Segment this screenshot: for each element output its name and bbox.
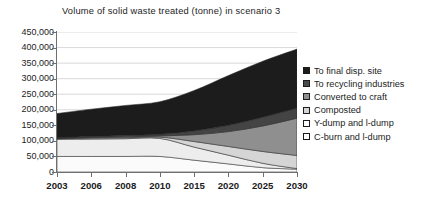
x-tick-mark: [228, 172, 229, 177]
legend-swatch-icon: [303, 93, 310, 100]
legend-item-label: To recycling industries: [314, 79, 404, 89]
legend-item[interactable]: Converted to craft: [303, 90, 436, 103]
legend-item[interactable]: Y-dump and l-dump: [303, 117, 436, 130]
x-tick-label: 2003: [46, 180, 67, 191]
x-tick-mark: [194, 172, 195, 177]
y-tick-mark: [52, 141, 57, 142]
x-tick-label: 2020: [218, 180, 239, 191]
x-tick-mark: [57, 172, 58, 177]
y-tick-mark: [52, 110, 57, 111]
chart-legend: To final disp. siteTo recycling industri…: [303, 64, 436, 143]
legend-item[interactable]: To final disp. site: [303, 64, 436, 77]
legend-item[interactable]: Composted: [303, 104, 436, 117]
y-tick-label: 200,000: [0, 105, 54, 114]
y-tick-mark: [52, 79, 57, 80]
y-tick-mark: [52, 156, 57, 157]
y-tick-label: 0: [0, 168, 54, 177]
legend-item-label: Composted: [314, 105, 361, 115]
x-tick-mark: [126, 172, 127, 177]
y-tick-label: 450,000: [0, 28, 54, 37]
y-tick-label: 350,000: [0, 59, 54, 68]
legend-item-label: Y-dump and l-dump: [314, 118, 394, 128]
x-tick-mark: [160, 172, 161, 177]
y-tick-mark: [52, 32, 57, 33]
y-tick-mark: [52, 63, 57, 64]
x-tick-label: 2008: [115, 180, 136, 191]
legend-swatch-icon: [303, 133, 310, 140]
legend-swatch-icon: [303, 80, 310, 87]
chart-title: Volume of solid waste treated (tonne) in…: [62, 6, 280, 16]
y-tick-mark: [52, 94, 57, 95]
y-tick-mark: [52, 125, 57, 126]
x-tick-label: 2015: [183, 180, 204, 191]
legend-item-label: Converted to craft: [314, 92, 387, 102]
plot-area: [57, 32, 297, 172]
stacked-area-plot: [57, 32, 297, 172]
x-tick-label: 2025: [252, 180, 273, 191]
legend-swatch-icon: [303, 67, 310, 74]
x-tick-label: 2030: [286, 180, 307, 191]
y-tick-label: 250,000: [0, 90, 54, 99]
y-tick-label: 100,000: [0, 136, 54, 145]
x-tick-mark: [297, 172, 298, 177]
x-tick-label: 2010: [149, 180, 170, 191]
legend-swatch-icon: [303, 107, 310, 114]
y-axis-tick-labels: 450,000400,000350,000300,000250,000200,0…: [0, 32, 54, 172]
y-tick-label: 150,000: [0, 121, 54, 130]
y-tick-label: 50,000: [0, 152, 54, 161]
legend-item-label: C-burn and l-dump: [314, 132, 391, 142]
x-axis-tick-labels: 20032006200820102015202020252030: [0, 180, 320, 196]
x-tick-mark: [91, 172, 92, 177]
legend-swatch-icon: [303, 120, 310, 127]
y-tick-label: 400,000: [0, 43, 54, 52]
y-tick-label: 300,000: [0, 74, 54, 83]
x-axis-line: [56, 172, 298, 173]
y-tick-mark: [52, 48, 57, 49]
legend-item[interactable]: To recycling industries: [303, 77, 436, 90]
legend-item-label: To final disp. site: [314, 66, 382, 76]
x-tick-mark: [263, 172, 264, 177]
x-tick-label: 2006: [81, 180, 102, 191]
legend-item[interactable]: C-burn and l-dump: [303, 130, 436, 143]
chart-figure: Volume of solid waste treated (tonne) in…: [0, 0, 436, 203]
